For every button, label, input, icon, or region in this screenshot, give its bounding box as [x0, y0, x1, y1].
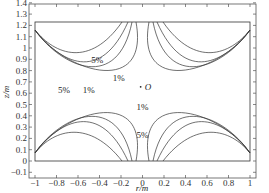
center-point-marker	[140, 86, 142, 88]
contour-labels: 5%1%5%1%O1%5%	[58, 55, 152, 141]
x-tick-label: −0.2	[113, 178, 129, 188]
y-tick-label: 0.9	[16, 54, 28, 64]
y-tick-label: 0.4	[16, 111, 28, 121]
y-tick-label: 1.2	[16, 20, 27, 30]
y-axis-ticks: −0.100.10.20.30.40.50.60.70.80.911.11.21…	[11, 0, 256, 177]
contour-chart: −0.100.10.20.30.40.50.60.70.80.911.11.21…	[0, 0, 269, 193]
center-point-label: O	[145, 82, 152, 92]
contour-label: 1%	[113, 73, 126, 83]
x-tick-label: 0.8	[223, 178, 235, 188]
y-tick-label: 0.3	[16, 122, 28, 132]
x-tick-label: 0.2	[158, 178, 169, 188]
y-tick-label: 1.1	[16, 32, 27, 42]
contour-label: 5%	[58, 85, 71, 95]
x-axis-ticks: −1−0.8−0.6−0.4−0.200.20.40.60.81	[30, 4, 252, 188]
contour-label: 5%	[91, 55, 104, 65]
y-tick-label: 0.7	[16, 77, 28, 87]
y-tick-label: 0.6	[16, 88, 28, 98]
y-tick-label: 0.5	[16, 100, 28, 110]
y-axis-label: z/m	[1, 85, 11, 99]
y-tick-label: 1.4	[16, 0, 28, 8]
contour-label: 1%	[83, 85, 96, 95]
x-tick-label: 0.6	[201, 178, 213, 188]
y-tick-label: −0.1	[11, 167, 27, 177]
y-tick-label: 1.3	[16, 9, 28, 19]
x-tick-label: −0.8	[48, 178, 65, 188]
x-tick-label: −0.4	[91, 178, 108, 188]
x-tick-label: 0.4	[180, 178, 192, 188]
y-tick-label: 0.8	[16, 66, 28, 76]
contour-label: 5%	[137, 130, 150, 140]
y-tick-label: 0	[23, 156, 28, 166]
y-tick-label: 1	[23, 43, 28, 53]
x-tick-label: −0.6	[70, 178, 87, 188]
y-tick-label: 0.1	[16, 145, 27, 155]
y-tick-label: 0.2	[16, 133, 27, 143]
x-axis-label: r/m	[136, 183, 149, 193]
x-tick-label: 1	[248, 178, 253, 188]
x-tick-label: −1	[30, 178, 40, 188]
contour-label: 1%	[137, 102, 150, 112]
